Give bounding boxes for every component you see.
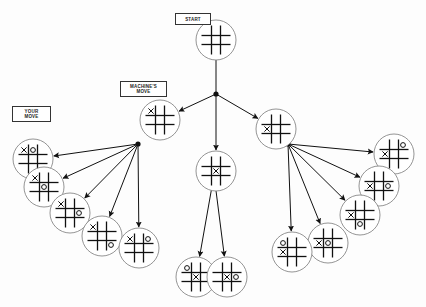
tree-edge-arrow	[288, 144, 320, 224]
board-circle	[119, 228, 159, 268]
machine-move-board-edge	[256, 109, 296, 149]
board-circle	[196, 20, 236, 60]
tree-edge-arrow	[138, 144, 139, 227]
your-move-board-edge-4	[308, 223, 348, 263]
board-circle	[256, 109, 296, 149]
tree-edge-arrow	[179, 94, 216, 111]
machine-move-board-corner	[140, 100, 180, 140]
your-move-board-center-2	[207, 257, 247, 297]
your-move-label: YOUR MOVE	[12, 106, 51, 122]
board-circle	[340, 195, 380, 235]
machine-move-label: MACHINE'S MOVE	[120, 81, 167, 97]
tree-edge-arrow	[288, 144, 291, 231]
your-move-board-edge-3	[340, 195, 380, 235]
machine-move-board-center	[196, 151, 236, 191]
game-tree-graphic	[0, 0, 426, 307]
tree-edge-arrow	[85, 144, 138, 198]
your-move-board-edge-5	[272, 232, 312, 272]
tree-edge-arrow	[288, 144, 360, 177]
tree-nodes	[13, 20, 414, 297]
board-circle	[272, 232, 312, 272]
game-tree-diagram: START MACHINE'S MOVE YOUR MOVE	[0, 0, 426, 307]
start-label: START	[175, 13, 211, 25]
board-circle	[308, 223, 348, 263]
your-move-board-corner-4	[82, 216, 122, 256]
start-board-node	[196, 20, 236, 60]
tree-edge-arrow	[288, 144, 373, 152]
your-move-board-corner-5	[119, 228, 159, 268]
board-circle	[82, 216, 122, 256]
tree-edge-arrow	[288, 144, 345, 200]
board-circle	[140, 100, 180, 140]
tree-edge-arrow	[216, 94, 258, 118]
